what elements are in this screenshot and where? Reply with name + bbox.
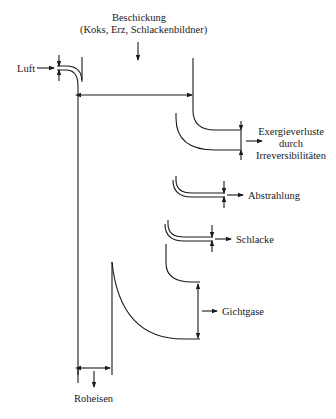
roheisen-label: Roheisen bbox=[74, 393, 113, 405]
luft-label: Luft bbox=[17, 63, 35, 75]
exergy-flow-diagram bbox=[0, 0, 336, 419]
beschickung-label: Beschickung (Koks, Erz, Schlackenbildner… bbox=[80, 12, 198, 36]
stream-right-outer bbox=[193, 58, 240, 130]
luft-stream-outer bbox=[57, 66, 82, 82]
schlacke-label: Schlacke bbox=[236, 234, 274, 246]
luft-stream-inner bbox=[57, 70, 78, 86]
exergy-loss-label: Exergieverluste durch Irreversibilitäten bbox=[250, 126, 332, 162]
gichtgase-label: Gichtgase bbox=[222, 306, 264, 318]
abstrahlung-label: Abstrahlung bbox=[248, 190, 300, 202]
